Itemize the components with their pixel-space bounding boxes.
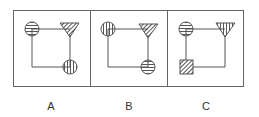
panel-c: [179, 22, 235, 74]
label-b: B: [119, 100, 139, 112]
circle-horizontal-icon: [141, 60, 155, 74]
label-c: C: [196, 100, 216, 112]
panel-a: [25, 22, 79, 74]
triangle-vertical-icon: [216, 23, 235, 37]
triangle-diagonal-icon: [60, 23, 79, 37]
outer-frame: [14, 11, 244, 87]
square-diagonal-icon: [180, 60, 193, 74]
circle-horizontal-icon: [179, 22, 193, 36]
circle-vertical-icon: [63, 60, 77, 74]
label-a: A: [41, 100, 61, 112]
panel-b: [101, 22, 158, 74]
triangle-diagonal-icon: [139, 24, 158, 38]
circle-vertical-icon: [101, 22, 115, 36]
circle-horizontal-icon: [25, 22, 39, 36]
